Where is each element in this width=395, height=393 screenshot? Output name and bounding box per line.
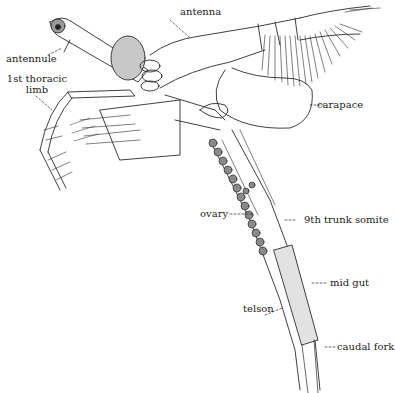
label-1st-thoracic-limb-line2: limb [26,84,48,95]
mid-gut-shape [274,245,318,345]
carapace-outline [216,68,312,128]
crustacean-drawing [0,0,395,393]
label-9th-trunk-somite: 9th trunk somite [304,214,389,225]
label-1st-thoracic-limb-line1: 1st thoracic [7,73,67,84]
label-antenna: antenna [180,6,221,17]
label-1st-thoracic-limb: 1st thoracic limb [6,73,68,95]
label-mid-gut: mid gut [330,277,369,288]
thoracic-limb-shape [40,90,180,190]
gland-shape [111,36,145,80]
label-ovary: ovary [200,208,228,219]
label-carapace: carapace [317,99,363,110]
label-caudal-fork: caudal fork [337,341,394,352]
antenna-setae [262,8,380,86]
label-antennule: antennule [6,53,57,64]
label-telson: telson [243,303,274,314]
crustacean-anatomy-figure: antenna antennule 1st thoracic limb cara… [0,0,395,393]
